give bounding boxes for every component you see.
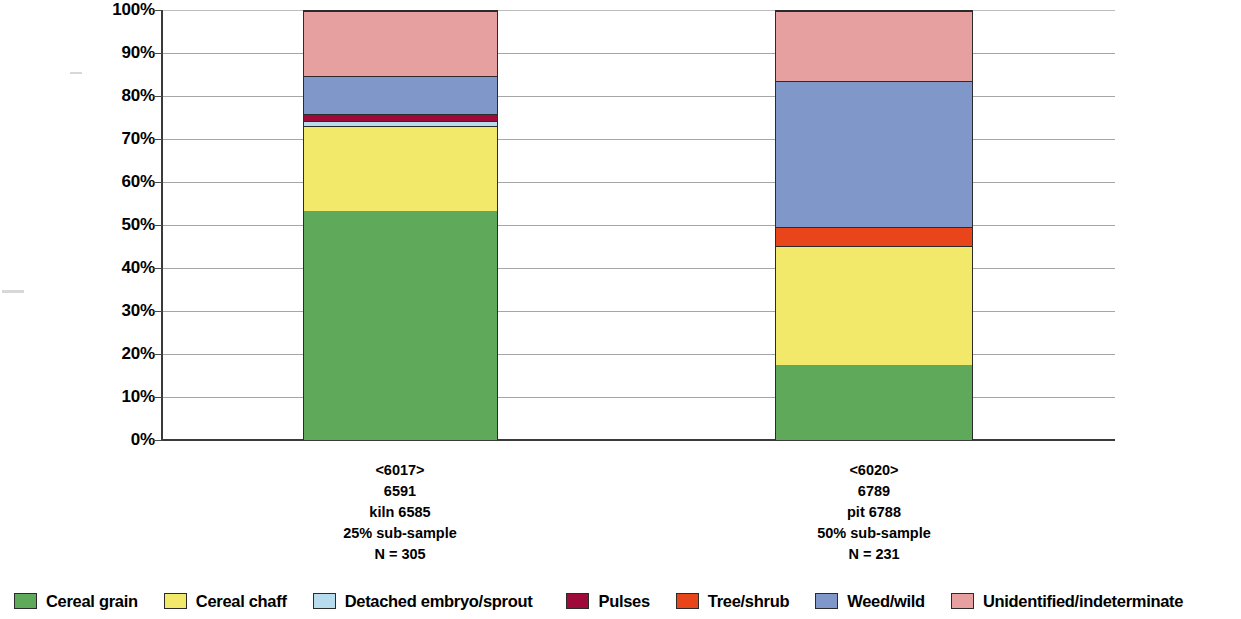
- category-label-line: 6591: [250, 481, 550, 502]
- bar-segment[interactable]: [776, 81, 972, 227]
- category-label-line: pit 6788: [724, 502, 1024, 523]
- legend-item[interactable]: Weed/wild: [815, 592, 925, 611]
- legend-label: Cereal grain: [46, 592, 138, 611]
- category-label-line: <6020>: [724, 460, 1024, 481]
- bar-segment[interactable]: [776, 365, 972, 440]
- y-tick-mark: [153, 440, 162, 441]
- bar-segment[interactable]: [304, 76, 497, 114]
- legend-item[interactable]: Detached embryo/sprout: [313, 592, 533, 611]
- category-label-line: 50% sub-sample: [724, 523, 1024, 544]
- bar-segment[interactable]: [304, 11, 497, 76]
- y-tick-label: 30%: [5, 301, 155, 321]
- bar-segment[interactable]: [776, 227, 972, 246]
- y-axis: 0%10%20%30%40%50%60%70%80%90%100%: [0, 0, 155, 450]
- bar-segment[interactable]: [304, 121, 497, 125]
- y-tick-mark: [153, 268, 162, 269]
- legend-label: Detached embryo/sprout: [345, 592, 533, 611]
- y-tick-mark: [153, 311, 162, 312]
- legend-swatch-6: [815, 593, 838, 609]
- y-tick-label: 60%: [5, 172, 155, 192]
- category-label-line: N = 305: [250, 544, 550, 565]
- bar-column-6017: [303, 0, 498, 450]
- y-tick-mark: [153, 397, 162, 398]
- bar-segment[interactable]: [304, 211, 497, 440]
- category-label-6020: <6020>6789pit 678850% sub-sampleN = 231: [724, 460, 1024, 565]
- y-tick-label: 100%: [5, 0, 155, 20]
- plot-area: 0%10%20%30%40%50%60%70%80%90%100% <6017>…: [0, 0, 1241, 575]
- category-label-line: 6789: [724, 481, 1024, 502]
- legend-label: Weed/wild: [847, 592, 925, 611]
- scan-speck: [70, 72, 82, 74]
- chart-page: 0%10%20%30%40%50%60%70%80%90%100% <6017>…: [0, 0, 1241, 619]
- y-tick-label: 70%: [5, 129, 155, 149]
- legend-swatch-7: [951, 593, 974, 609]
- bar-segment[interactable]: [304, 114, 497, 122]
- y-tick-mark: [153, 53, 162, 54]
- y-tick-mark: [153, 10, 162, 11]
- legend: Cereal grainCereal chaffDetached embryo/…: [0, 583, 1241, 619]
- legend-label: Cereal chaff: [196, 592, 287, 611]
- bar-segment[interactable]: [304, 126, 497, 212]
- legend-swatch-3: [313, 593, 336, 609]
- legend-item[interactable]: Pulses: [566, 592, 649, 611]
- y-tick-label: 0%: [5, 430, 155, 450]
- category-label-line: kiln 6585: [250, 502, 550, 523]
- y-tick-label: 20%: [5, 344, 155, 364]
- y-tick-mark: [153, 96, 162, 97]
- legend-item[interactable]: Cereal grain: [14, 592, 138, 611]
- legend-swatch-4: [566, 593, 589, 609]
- y-tick-mark: [153, 139, 162, 140]
- y-tick-mark: [153, 182, 162, 183]
- legend-item[interactable]: Cereal chaff: [164, 592, 287, 611]
- y-tick-label: 50%: [5, 215, 155, 235]
- bar-segment[interactable]: [776, 246, 972, 365]
- bar-column-6020: [775, 0, 973, 450]
- y-tick-label: 40%: [5, 258, 155, 278]
- legend-item[interactable]: Tree/shrub: [676, 592, 789, 611]
- bar-segment[interactable]: [776, 11, 972, 81]
- legend-label: Tree/shrub: [708, 592, 789, 611]
- category-label-6017: <6017>6591kiln 658525% sub-sampleN = 305: [250, 460, 550, 565]
- legend-swatch-5: [676, 593, 699, 609]
- category-label-line: 25% sub-sample: [250, 523, 550, 544]
- category-label-line: N = 231: [724, 544, 1024, 565]
- y-tick-label: 90%: [5, 43, 155, 63]
- y-tick-mark: [153, 354, 162, 355]
- category-label-line: <6017>: [250, 460, 550, 481]
- y-tick-label: 80%: [5, 86, 155, 106]
- legend-item[interactable]: Unidentified/indeterminate: [951, 592, 1183, 611]
- stacked-bar[interactable]: [303, 10, 498, 440]
- legend-label: Unidentified/indeterminate: [983, 592, 1183, 611]
- scan-speck: [2, 290, 24, 293]
- legend-swatch-2: [164, 593, 187, 609]
- stacked-bar[interactable]: [775, 10, 973, 440]
- y-tick-mark: [153, 225, 162, 226]
- legend-label: Pulses: [598, 592, 649, 611]
- y-tick-label: 10%: [5, 387, 155, 407]
- legend-swatch-1: [14, 593, 37, 609]
